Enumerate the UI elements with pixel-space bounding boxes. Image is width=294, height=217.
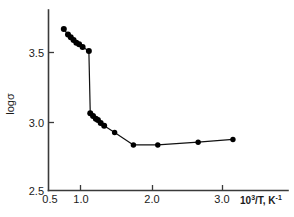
x-tick-group: 0.5 1.0 2.0 3.0	[42, 185, 229, 205]
data-series-group	[61, 26, 236, 148]
x-axis-title-rest-exponent: -1	[276, 194, 282, 201]
data-point	[80, 44, 86, 50]
svg-text:103/T, K-1: 103/T, K-1	[240, 194, 282, 206]
y-tick-group: 3.5 3.0 2.5	[29, 47, 54, 197]
x-tick-label-0.5: 0.5	[42, 193, 57, 205]
axis-group	[49, 10, 289, 191]
series-point-group	[61, 26, 236, 148]
data-point	[230, 137, 235, 142]
y-tick-label-3.0: 3.0	[29, 117, 44, 129]
x-tick-label-2.0: 2.0	[144, 193, 159, 205]
x-axis-title-base: 10	[240, 195, 252, 206]
series-line-logsigma	[64, 29, 233, 145]
data-point	[112, 130, 117, 135]
y-axis-title: logσ	[4, 93, 16, 115]
data-point	[86, 48, 92, 54]
x-tick-label-3.0: 3.0	[214, 193, 229, 205]
data-point	[155, 142, 160, 147]
data-point	[61, 26, 67, 32]
data-point	[101, 123, 107, 129]
conductivity-arrhenius-plot: 3.5 3.0 2.5 0.5 1.0 2.0 3.0 103/T, K-1 l…	[0, 0, 294, 217]
chart-figure: 3.5 3.0 2.5 0.5 1.0 2.0 3.0 103/T, K-1 l…	[0, 0, 294, 217]
data-point	[131, 142, 136, 147]
data-point	[195, 140, 200, 145]
y-axis-title-label: logσ	[4, 93, 16, 115]
x-axis-title: 103/T, K-1	[240, 194, 282, 206]
x-axis-title-rest: /T, K	[255, 195, 276, 206]
y-tick-label-3.5: 3.5	[29, 47, 44, 59]
x-tick-label-1.0: 1.0	[73, 193, 88, 205]
